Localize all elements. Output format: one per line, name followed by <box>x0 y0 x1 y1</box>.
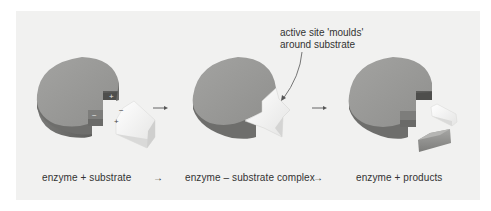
arrow-icon <box>153 106 168 110</box>
annotation-arrow-icon <box>281 52 302 101</box>
stage-label-2: enzyme – substrate complex <box>185 172 315 183</box>
annotation-line-2: around substrate <box>280 39 363 51</box>
enzyme-stage-3 <box>349 57 432 139</box>
enzyme-stage-1 <box>37 57 119 138</box>
charge-substrate-upper: − <box>119 106 124 115</box>
charge-enzyme-lower: − <box>92 111 97 120</box>
annotation-text: active site 'moulds' around substrate <box>280 27 363 51</box>
charge-enzyme-upper: + <box>109 92 114 101</box>
active-site-lower <box>400 111 416 120</box>
stage-label-1: enzyme + substrate <box>42 172 131 183</box>
stage-label-3: enzyme + products <box>356 172 442 183</box>
product-1 <box>431 104 457 126</box>
label-arrow-1: → <box>153 172 163 183</box>
label-arrow-2: → <box>313 172 323 183</box>
product-2 <box>418 129 451 152</box>
charge-substrate-lower: + <box>114 117 119 126</box>
annotation-line-1: active site 'moulds' <box>280 27 363 39</box>
arrow-icon <box>312 106 327 110</box>
